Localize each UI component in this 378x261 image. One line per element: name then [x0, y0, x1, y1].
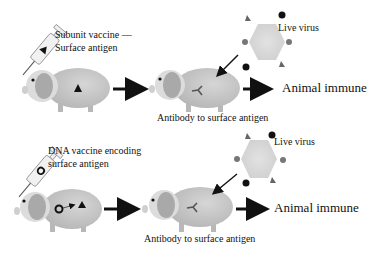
pig-immune-icon	[149, 68, 240, 112]
virus-icon	[242, 12, 292, 71]
pig-immune-icon	[142, 187, 233, 232]
virus-label: Live virus	[278, 22, 319, 33]
outcome-label: Animal immune	[274, 201, 359, 215]
arrow-infection-icon	[218, 55, 238, 75]
vaccine-label: Subunit vaccine —	[55, 29, 132, 40]
pig-vaccinated-icon	[14, 189, 102, 232]
outcome-label: Animal immune	[282, 81, 367, 95]
antibody-label: Antibody to surface antigen	[157, 112, 268, 123]
panel-subunit	[18, 12, 292, 113]
vaccine-label: DNA vaccine encoding	[48, 145, 141, 156]
vaccine-diagram: Subunit vaccine — Surface antigen Live v…	[0, 0, 378, 261]
arrow-infection-icon	[214, 174, 237, 193]
vaccine-label: surface antigen	[48, 158, 109, 169]
virus-label: Live virus	[274, 136, 315, 147]
vaccine-label: Surface antigen	[55, 42, 117, 53]
antibody-label: Antibody to surface antigen	[144, 233, 255, 244]
pig-vaccinated-icon	[22, 68, 110, 112]
